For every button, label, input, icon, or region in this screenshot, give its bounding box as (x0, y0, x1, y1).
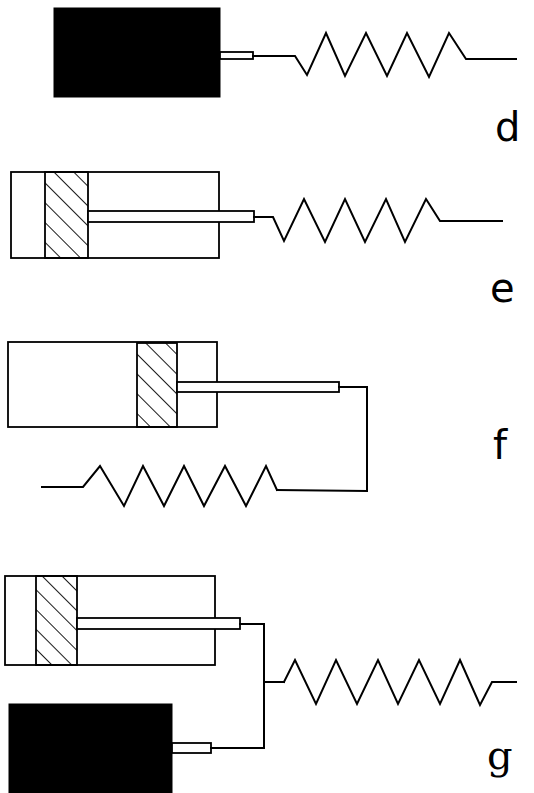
spring (284, 660, 516, 705)
spring (253, 33, 516, 77)
spring (42, 466, 277, 506)
mass-block (9, 704, 172, 793)
dashpot-piston-hatched (36, 576, 77, 665)
rod (220, 52, 253, 59)
dashpot-piston-hatched (45, 172, 88, 258)
panel-label-g: g (487, 735, 513, 775)
piston-rod (88, 211, 254, 222)
panel-label-d: d (495, 107, 520, 147)
panel-e (11, 172, 502, 258)
connector-wire (277, 387, 367, 491)
piston-rod (177, 382, 339, 392)
diagram-canvas (0, 0, 534, 793)
panel-d (54, 8, 516, 97)
piston-rod (77, 618, 240, 629)
mass-block (54, 8, 220, 97)
mass-rod (172, 743, 211, 753)
parallel-connector (211, 624, 264, 748)
panel-g (5, 576, 516, 793)
spring (254, 199, 502, 242)
dashpot-piston-hatched (137, 343, 177, 427)
panel-label-f: f (493, 425, 507, 465)
panel-f (8, 342, 367, 506)
panel-label-e: e (490, 268, 515, 308)
